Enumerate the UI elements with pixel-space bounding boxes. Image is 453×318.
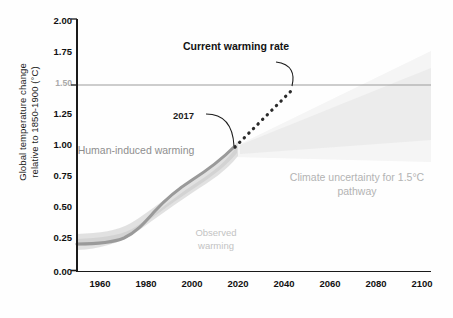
x-axis-line (76, 271, 431, 273)
annotation-human-induced-warming: Human-induced warming (76, 143, 196, 157)
annotation-current-warming-rate: Current warming rate (176, 40, 296, 53)
annotation-year-2017: 2017 (173, 110, 194, 121)
uncertainty-fan-band-inner (240, 68, 431, 154)
annotation-climate-uncertainty: Climate uncertainty for 1.5°C pathway (287, 170, 427, 198)
current-rate-leader-line (276, 62, 293, 86)
year-2017-leader-line (206, 114, 234, 146)
annotation-observed-warming: Observed warming (178, 226, 254, 252)
chart-figure: Global temperature change relative to 18… (0, 0, 453, 318)
